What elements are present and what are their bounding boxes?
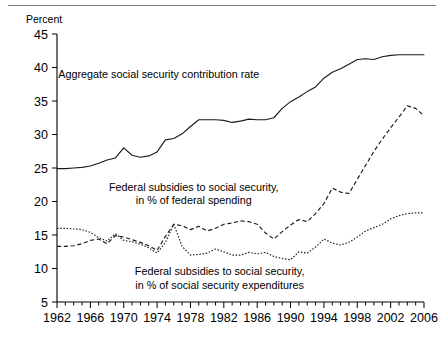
series-line — [57, 106, 424, 251]
x-tick-label: 1978 — [177, 311, 205, 325]
x-tick-label: 1962 — [43, 311, 71, 325]
x-tick-label: 2002 — [377, 311, 405, 325]
series-lines — [57, 55, 424, 260]
x-tick-label: 1974 — [143, 311, 171, 325]
y-tick-label: 5 — [41, 296, 48, 310]
y-tick-label: 40 — [34, 61, 48, 75]
x-tick-label: 1982 — [210, 311, 238, 325]
x-tick-label: 1970 — [110, 311, 138, 325]
social-security-expenditures-label: Federal subsidies to social security, — [135, 265, 305, 277]
x-axis-ticks: 1962196619701974197819821986199019941998… — [43, 302, 438, 325]
y-tick-label: 30 — [34, 128, 48, 142]
x-tick-label: 1990 — [277, 311, 305, 325]
y-tick-label: 25 — [34, 162, 48, 176]
series-annotations: Aggregate social security contribution r… — [58, 68, 304, 291]
y-axis-ticks: 51015202530354045 — [34, 28, 57, 310]
aggregate-contribution-label: Aggregate social security contribution r… — [58, 68, 259, 80]
y-axis-title: Percent — [26, 13, 62, 25]
x-tick-label: 1986 — [243, 311, 271, 325]
y-tick-label: 45 — [34, 28, 48, 42]
federal-spending-label: in % of federal spending — [136, 194, 252, 206]
x-tick-label: 1998 — [343, 311, 371, 325]
x-tick-label: 1966 — [76, 311, 104, 325]
y-tick-label: 15 — [34, 229, 48, 243]
x-tick-label: 2006 — [410, 311, 438, 325]
y-tick-label: 10 — [34, 262, 48, 276]
line-chart: Percent 51015202530354045 19621966197019… — [0, 0, 444, 347]
series-line — [57, 213, 424, 260]
y-tick-label: 35 — [34, 95, 48, 109]
social-security-expenditures-label: in % of social security expenditures — [135, 279, 304, 291]
chart-figure: Percent 51015202530354045 19621966197019… — [0, 0, 444, 347]
x-tick-label: 1994 — [310, 311, 338, 325]
federal-spending-label: Federal subsidies to social security, — [109, 181, 279, 193]
y-tick-label: 20 — [34, 195, 48, 209]
